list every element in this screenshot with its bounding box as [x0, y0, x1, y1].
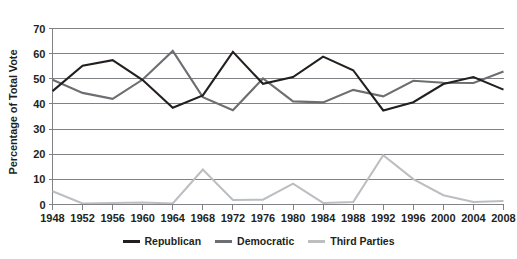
x-tick-label: 1996 — [401, 212, 425, 224]
x-tick-label: 1948 — [40, 212, 64, 224]
plot-area: 0102030405060701948195219561960196419681… — [0, 0, 517, 259]
x-tick-label: 1952 — [70, 212, 94, 224]
x-tick-label: 2000 — [431, 212, 455, 224]
legend-label: Third Parties — [330, 235, 394, 247]
x-tick-label: 1976 — [251, 212, 275, 224]
x-tick-label: 1972 — [221, 212, 245, 224]
legend-swatch — [215, 240, 232, 243]
x-tick-label: 1968 — [191, 212, 215, 224]
x-tick-label: 1980 — [281, 212, 305, 224]
y-tick-label: 40 — [33, 98, 45, 110]
line-chart: Percentage of Total Vote 010203040506070… — [0, 0, 517, 259]
x-tick-label: 1988 — [341, 212, 365, 224]
x-tick-label: 1964 — [161, 212, 186, 224]
legend-swatch — [123, 240, 140, 243]
x-tick-label: 1960 — [130, 212, 154, 224]
x-tick-label: 1992 — [371, 212, 395, 224]
chart-legend: RepublicanDemocraticThird Parties — [0, 231, 517, 251]
series-line-republican — [53, 52, 504, 111]
legend-item-third-parties[interactable]: Third Parties — [308, 235, 394, 247]
legend-swatch — [308, 240, 325, 243]
y-tick-label: 10 — [33, 173, 45, 185]
y-tick-label: 70 — [33, 23, 45, 35]
legend-item-republican[interactable]: Republican — [123, 235, 202, 247]
x-tick-label: 2004 — [461, 212, 486, 224]
x-tick-label: 1956 — [100, 212, 124, 224]
y-tick-label: 60 — [33, 48, 45, 60]
x-tick-label: 1984 — [311, 212, 336, 224]
legend-label: Republican — [145, 235, 202, 247]
y-tick-label: 50 — [33, 73, 45, 85]
y-tick-label: 0 — [39, 199, 45, 211]
legend-label: Democratic — [237, 235, 294, 247]
x-tick-label: 2008 — [491, 212, 515, 224]
legend-item-democratic[interactable]: Democratic — [215, 235, 294, 247]
y-tick-label: 30 — [33, 123, 45, 135]
y-tick-label: 20 — [33, 148, 45, 160]
